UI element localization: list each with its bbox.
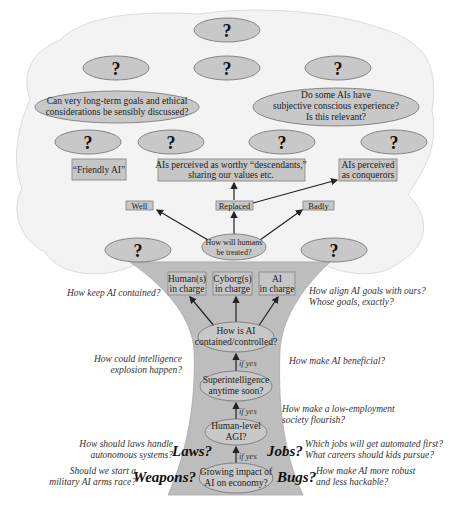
conquerors-box: AIs perceived as conquerors [339, 159, 397, 181]
svg-text:in charge: in charge [260, 284, 295, 294]
if-yes-label: if yes [239, 451, 257, 461]
question-weapons-1: Should we start a [70, 466, 136, 476]
svg-text:Growing impact of: Growing impact of [200, 467, 273, 477]
question-bugs-1: How make AI more robust [315, 466, 416, 476]
svg-text:subjective conscious experienc: subjective conscious experience? [273, 101, 399, 111]
svg-text:considerations be sensibly dis: considerations be sensibly discussed? [46, 107, 189, 117]
topic-weapons: Weapons? [133, 469, 196, 485]
svg-text:anytime soon?: anytime soon? [208, 386, 263, 396]
badly-box: Badly [303, 201, 334, 211]
consciousness-node: Do some AIs have subjective conscious ex… [253, 88, 419, 126]
if-yes-label: if yes [239, 406, 257, 416]
ai-question-tree-diagram: ? ? ? ? Can very long-term goals and eth… [0, 0, 449, 505]
question-jobs-1: Which jobs will get automated first? [305, 439, 443, 449]
svg-text:Human-level: Human-level [211, 421, 261, 431]
question-align-goals-2: Whose goals, exactly? [309, 297, 394, 307]
long-term-goals-node: Can very long-term goals and ethical con… [35, 91, 199, 123]
well-box: Well [126, 201, 153, 211]
unknown-node-row3-3: ? [249, 130, 315, 154]
superintelligence-node: Superintelligence anytime soon? [200, 371, 272, 401]
svg-text:How will humans: How will humans [206, 238, 263, 247]
svg-text:?: ? [112, 59, 121, 79]
unknown-node-row3-1: ? [55, 130, 121, 154]
question-laws-1: How should laws handle [78, 439, 173, 449]
svg-text:?: ? [167, 133, 176, 153]
svg-text:?: ? [278, 133, 287, 153]
svg-text:Is this relevant?: Is this relevant? [306, 112, 366, 122]
unknown-node-row2-left: ? [83, 56, 149, 80]
replaced-box: Replaced [216, 201, 253, 211]
unknown-node-row3-4: ? [361, 130, 427, 154]
question-weapons-2: military AI arms race? [49, 477, 136, 487]
question-intelligence-explosion-2: explosion happen? [110, 365, 182, 375]
svg-text:in charge: in charge [170, 284, 205, 294]
svg-text:?: ? [134, 241, 143, 261]
topic-bugs: Bugs? [276, 469, 316, 485]
svg-text:AIs perceived as worthy “des: AIs perceived as worthy “descendants,” [155, 160, 307, 170]
svg-text:?: ? [334, 59, 343, 79]
svg-text:?: ? [223, 59, 232, 79]
topic-laws: Laws? [171, 443, 212, 459]
question-low-employment-2: society flourish? [282, 415, 345, 425]
unknown-node-row2-center: ? [194, 56, 260, 80]
svg-text:AIs perceived: AIs perceived [341, 160, 394, 170]
question-bugs-2: and less hackable? [316, 477, 389, 487]
svg-text:?: ? [390, 133, 399, 153]
svg-text:?: ? [84, 133, 93, 153]
svg-text:?: ? [223, 21, 232, 41]
question-align-goals-1: How align AI goals with ours? [308, 286, 426, 296]
unknown-node-bottom-left: ? [105, 238, 171, 262]
svg-text:in charge: in charge [215, 284, 250, 294]
question-beneficial: How make AI beneficial? [288, 356, 385, 366]
economy-impact-node: Growing impact of AI on economy? [199, 463, 273, 493]
unknown-node-bottom-right: ? [301, 238, 367, 262]
svg-text:Replaced: Replaced [219, 201, 251, 211]
svg-text:as conquerors: as conquerors [342, 170, 395, 180]
svg-text:Superintelligence: Superintelligence [203, 375, 269, 385]
svg-text:“Friendly AI”: “Friendly AI” [73, 165, 126, 175]
descendants-box: AIs perceived as worthy “descendants,” s… [155, 159, 307, 181]
svg-text:be treated?: be treated? [217, 248, 252, 257]
svg-text:AGI?: AGI? [225, 432, 246, 442]
svg-text:contained/controlled?: contained/controlled? [195, 337, 277, 347]
svg-text:Badly: Badly [308, 201, 329, 211]
ai-in-charge-box: AI in charge [259, 272, 295, 295]
svg-text:Well: Well [132, 201, 148, 211]
svg-text:How is AI: How is AI [216, 326, 255, 336]
unknown-node-row3-2: ? [138, 130, 204, 154]
question-laws-2: autonomous systems? [90, 450, 173, 460]
svg-text:Do some AIs have: Do some AIs have [301, 90, 371, 100]
humans-treated-node: How will humans be treated? [202, 234, 266, 260]
question-low-employment-1: How make a low-employment [281, 404, 395, 414]
question-keep-contained: How keep AI contained? [66, 288, 161, 298]
topic-jobs: Jobs? [266, 443, 303, 459]
svg-text:Can very long-term goals and e: Can very long-term goals and ethical [47, 96, 188, 106]
human-level-agi-node: Human-level AGI? [205, 419, 267, 445]
if-yes-label: if yes [239, 358, 257, 368]
cyborgs-in-charge-box: Cyborg(s) in charge [213, 272, 252, 295]
svg-text:AI on economy?: AI on economy? [204, 478, 267, 488]
svg-text:AI: AI [272, 274, 282, 284]
question-intelligence-explosion-1: How could intelligence [93, 354, 182, 364]
unknown-node-top: ? [194, 18, 260, 42]
question-jobs-2: What careers should kids pursue? [305, 450, 434, 460]
svg-text:sharing our values etc.: sharing our values etc. [188, 170, 273, 180]
svg-text:?: ? [330, 241, 339, 261]
unknown-node-row2-right: ? [305, 56, 371, 80]
friendly-ai-box: “Friendly AI” [72, 159, 126, 180]
humans-in-charge-box: Human(s) in charge [168, 272, 206, 295]
